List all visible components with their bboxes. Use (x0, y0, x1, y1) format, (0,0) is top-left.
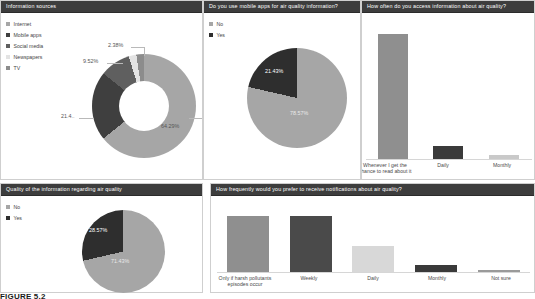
bar-column[interactable] (366, 33, 421, 159)
legend-item-no[interactable]: No (209, 19, 225, 29)
data-label-no: 71.43% (111, 258, 129, 264)
bar-whenever-i-get-the-chance[interactable] (378, 34, 408, 159)
x-tick-label: Monthly (472, 162, 532, 175)
legend-swatch-icon (209, 33, 213, 37)
x-tick-label: Only if harsh pollutants episodes occur (213, 275, 277, 288)
legend-item-yes[interactable]: Yes (6, 213, 22, 223)
legend-swatch-icon (6, 216, 10, 220)
legend-label: Newspapers (14, 54, 43, 60)
bar-axis-line (366, 159, 532, 160)
legend-swatch-icon (6, 205, 10, 209)
legend-label: Yes (14, 215, 22, 221)
panel-body-information-sources: Internet Mobile apps Social media Newspa… (1, 13, 202, 180)
leader-line (131, 47, 145, 48)
panel-title-information-sources: Information sources (1, 1, 202, 13)
legend-label: Internet (14, 21, 32, 27)
panel-title-access-frequency: How often do you access information abou… (362, 1, 534, 13)
bar-weekly[interactable] (290, 216, 332, 272)
panel-mobile-apps: Do you use mobile apps for air quality i… (203, 0, 361, 180)
legend-label: No (14, 204, 21, 210)
x-tick-label: Not sure (469, 275, 533, 288)
panel-body-quality: No Yes 28.57% 71.43% (1, 196, 202, 293)
bar-column[interactable] (421, 33, 476, 159)
panel-notification-frequency: How frequently would you prefer to recei… (210, 183, 535, 293)
legend-swatch-icon (6, 55, 10, 59)
legend-label: Yes (217, 32, 225, 38)
legend-item-internet[interactable]: Internet (6, 19, 43, 29)
data-label-newspapers: 2.38% (108, 42, 123, 48)
bar-column[interactable] (217, 212, 280, 272)
leader-line (189, 118, 202, 119)
panel-body-notification-frequency: Only if harsh pollutants episodes occur … (211, 196, 534, 293)
x-tick-label: Whenever I get the chance to read about … (362, 162, 414, 175)
x-tick-label: Daily (414, 162, 472, 175)
legend-swatch-icon (6, 66, 10, 70)
legend-mobile-apps: No Yes (209, 19, 225, 41)
bar-column[interactable] (342, 212, 405, 272)
x-tick-label: Monthly (405, 275, 469, 288)
data-label-yes: 21.43% (265, 68, 283, 74)
bar-column[interactable] (405, 212, 468, 272)
data-label-no: 78.57% (290, 110, 308, 116)
bar-only-if-harsh-pollutants[interactable] (227, 216, 269, 272)
bar-monthly[interactable] (415, 265, 457, 272)
panel-body-access-frequency: Whenever I get the chance to read about … (362, 13, 534, 180)
leader-line (144, 47, 145, 56)
legend-swatch-icon (6, 22, 10, 26)
data-label-social-media: 9.52% (83, 58, 98, 64)
legend-label: Social media (14, 43, 44, 49)
legend-information-sources: Internet Mobile apps Social media Newspa… (6, 19, 43, 74)
legend-item-social-media[interactable]: Social media (6, 41, 43, 51)
legend-item-yes[interactable]: Yes (209, 30, 225, 40)
bar-group-access-frequency (366, 33, 532, 159)
donut-chart-information-sources (92, 54, 196, 158)
data-label-mobile-apps: 21.4.. (61, 113, 75, 119)
bar-axis-line (217, 272, 530, 273)
leader-line (107, 63, 123, 64)
legend-label: TV (14, 65, 21, 71)
bar-monthly[interactable] (489, 155, 519, 159)
bar-daily[interactable] (433, 146, 463, 159)
panel-title-mobile-apps: Do you use mobile apps for air quality i… (204, 1, 360, 13)
leader-line (79, 118, 94, 119)
panel-information-sources: Information sources Internet Mobile apps… (0, 0, 203, 180)
data-label-yes: 28.57% (89, 227, 107, 233)
donut-ring (92, 54, 196, 158)
bar-column[interactable] (467, 212, 530, 272)
x-axis-labels-notification-frequency: Only if harsh pollutants episodes occur … (213, 275, 533, 288)
legend-item-newspapers[interactable]: Newspapers (6, 52, 43, 62)
legend-item-tv[interactable]: TV (6, 63, 43, 73)
x-tick-label: Weekly (277, 275, 341, 288)
bar-daily[interactable] (352, 246, 394, 272)
panel-title-quality: Quality of the information regarding air… (1, 184, 202, 196)
panel-body-mobile-apps: No Yes 21.43% 78.57% (204, 13, 360, 180)
legend-swatch-icon (209, 22, 213, 26)
panel-access-frequency: How often do you access information abou… (361, 0, 535, 180)
legend-quality: No Yes (6, 202, 22, 224)
pie-chart-mobile-apps (247, 48, 347, 148)
pie-chart-quality (82, 210, 165, 293)
figure-caption: FIGURE 5.2 (0, 292, 46, 299)
legend-item-mobile-apps[interactable]: Mobile apps (6, 30, 43, 40)
panel-quality: Quality of the information regarding air… (0, 183, 203, 293)
data-label-internet: 64.29% (161, 123, 179, 129)
legend-label: Mobile apps (14, 32, 42, 38)
x-tick-label: Daily (341, 275, 405, 288)
legend-label: No (217, 21, 224, 27)
legend-swatch-icon (6, 33, 10, 37)
legend-item-no[interactable]: No (6, 202, 22, 212)
legend-swatch-icon (6, 44, 10, 48)
panel-title-notification-frequency: How frequently would you prefer to recei… (211, 184, 534, 196)
bar-column[interactable] (476, 33, 532, 159)
x-axis-labels-access-frequency: Whenever I get the chance to read about … (362, 162, 532, 175)
bar-not-sure[interactable] (478, 270, 520, 272)
bar-group-notification-frequency (217, 212, 530, 272)
bar-column[interactable] (280, 212, 343, 272)
figure-page: Information sources Internet Mobile apps… (0, 0, 535, 299)
